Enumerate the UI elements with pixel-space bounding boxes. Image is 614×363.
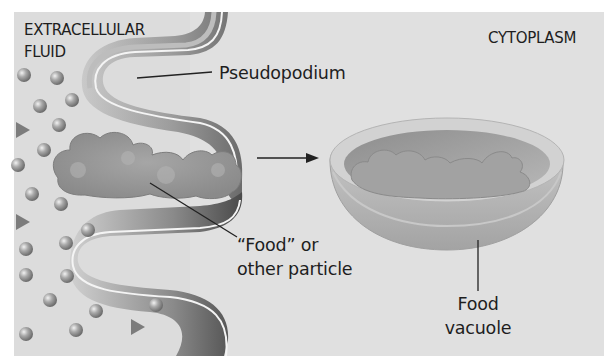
sphere-particle [19, 327, 33, 341]
food-vacuole-label: Food vacuole [440, 292, 516, 340]
sphere-particle [19, 268, 33, 282]
sphere-particle [59, 236, 73, 250]
sphere-particle [69, 323, 83, 337]
sphere-particle [65, 93, 79, 107]
sphere-particle [33, 99, 47, 113]
pseudopodium-label: Pseudopodium [219, 61, 346, 85]
sphere-particle [37, 143, 51, 157]
food-vacuole-label-line1: Food [440, 292, 516, 316]
sphere-particle [43, 293, 57, 307]
sphere-particle [17, 68, 31, 82]
food-particle-label-line1: “Food” or [237, 233, 352, 257]
sphere-particle [50, 71, 64, 85]
sphere-particle [11, 158, 25, 172]
cytoplasm-label: CYTOPLASM [488, 29, 576, 47]
sphere-particle [52, 118, 66, 132]
sphere-particle [54, 197, 68, 211]
food-particle-label: “Food” or other particle [237, 233, 352, 281]
food-particle-label-line2: other particle [237, 257, 352, 281]
phagocytosis-diagram: EXTRACELLULAR FLUID CYTOPLASM Pseudopodi… [0, 0, 614, 363]
extracellular-fluid-label: EXTRACELLULAR FLUID [24, 19, 145, 63]
sphere-particle [89, 304, 103, 318]
sphere-particle [19, 242, 33, 256]
extracellular-label-line1: EXTRACELLULAR [24, 19, 145, 41]
sphere-particle [149, 298, 163, 312]
sphere-particle [25, 187, 39, 201]
food-vacuole-label-line2: vacuole [440, 316, 516, 340]
sphere-particle [60, 269, 74, 283]
extracellular-label-line2: FLUID [24, 41, 145, 63]
sphere-particle [81, 223, 95, 237]
